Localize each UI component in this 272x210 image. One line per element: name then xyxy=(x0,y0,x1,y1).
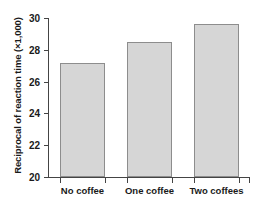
y-tick-label: 22 xyxy=(14,140,40,151)
x-axis-tick-labels: No coffeeOne coffeeTwo coffees xyxy=(49,185,250,203)
x-tick-label: No coffee xyxy=(61,185,104,196)
y-tick-label: 20 xyxy=(14,172,40,183)
y-tick-label: 28 xyxy=(14,44,40,55)
x-tick-mark xyxy=(105,178,106,183)
x-tick-label: One coffee xyxy=(125,185,174,196)
y-axis-tick-labels: 202224262830 xyxy=(14,0,40,210)
x-tick-mark xyxy=(194,178,195,183)
y-tick-label: 30 xyxy=(14,13,40,24)
x-tick-mark xyxy=(249,178,250,183)
bar xyxy=(127,42,171,177)
x-tick-mark xyxy=(127,178,128,183)
x-tick-mark xyxy=(172,178,173,183)
x-axis-tick-marks xyxy=(49,178,250,183)
plot-area xyxy=(49,18,250,177)
x-tick-label: Two coffees xyxy=(189,185,243,196)
bar xyxy=(60,63,104,177)
y-tick-label: 24 xyxy=(14,108,40,119)
bar-chart-figure: Reciprocal of reaction time (×1,000) 202… xyxy=(0,0,272,210)
x-tick-mark xyxy=(60,178,61,183)
y-tick-label: 26 xyxy=(14,76,40,87)
bar xyxy=(194,24,238,177)
x-tick-mark xyxy=(239,178,240,183)
